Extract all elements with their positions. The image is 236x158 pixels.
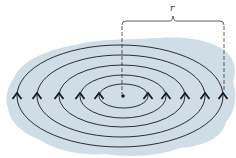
radius-label: r	[170, 4, 174, 13]
radius-brace	[122, 16, 224, 25]
field-diagram: r	[0, 0, 236, 158]
field-diagram-canvas	[0, 0, 236, 158]
center-point	[121, 94, 125, 98]
